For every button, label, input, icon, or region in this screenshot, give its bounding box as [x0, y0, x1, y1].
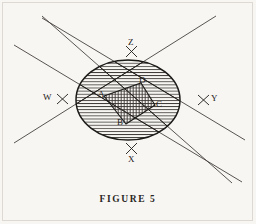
figure-diagram	[0, 0, 256, 224]
vertex-label-a: A	[98, 90, 105, 99]
vertex-label-c: C	[156, 100, 162, 109]
axis-label-w: W	[43, 93, 52, 102]
tick-mark-x	[126, 143, 137, 154]
axis-label-x: X	[128, 155, 135, 164]
tick-mark-z	[126, 46, 137, 57]
axis-label-z: Z	[128, 38, 134, 47]
axis-label-y: Y	[211, 94, 218, 103]
figure-caption: FIGURE 5	[0, 194, 256, 204]
tick-mark-y	[198, 95, 209, 105]
vertex-label-b: B	[117, 118, 123, 127]
figure-page: A B C D W Y Z X FIGURE 5	[0, 0, 256, 224]
vertex-label-d: D	[139, 76, 146, 85]
tick-mark-w	[57, 94, 68, 104]
